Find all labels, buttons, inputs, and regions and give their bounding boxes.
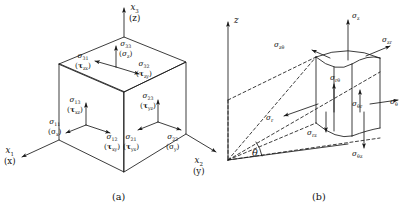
label-sigma-32: σ32 (τzy) (136, 60, 152, 81)
label-sigma-r-theta: σrθ (330, 74, 340, 84)
label-sigma-22: σ22 (σy) (166, 133, 180, 154)
label-sigma-11: σ11 (σx) (48, 118, 62, 139)
axis-label-x3: x3 (z) (129, 3, 140, 23)
caption-a: (a) (112, 192, 125, 202)
axis-label-x1: x1 (x) (4, 146, 16, 166)
label-sigma-33: σ33 (σz) (119, 40, 132, 61)
axis-x1-primary: x1 (6, 145, 14, 155)
axis-x2-alt: (y) (193, 166, 205, 176)
wedge-stress-arrows (284, 20, 398, 148)
top-face-stress-arrows (95, 46, 139, 74)
label-sigma-12: σ12 (τxy) (104, 133, 120, 154)
label-sigma-z-r: σzr (382, 36, 392, 46)
axis-x2-primary: x2 (195, 155, 203, 165)
label-sigma-31: σ31 (τzx) (75, 52, 91, 73)
axis-x3-alt: (z) (129, 13, 140, 23)
label-theta: θ (252, 148, 258, 158)
label-sigma-theta-r: σθr (352, 100, 362, 110)
axis-x3-primary: x3 (130, 2, 138, 12)
label-sigma-21: σ21 (τyx) (123, 133, 139, 154)
label-sigma-theta-z: σθz (352, 150, 362, 160)
caption-b: (b) (312, 192, 326, 202)
label-sigma-r: σr (266, 114, 273, 124)
label-sigma-23: σ23 (τyz) (140, 92, 156, 113)
axis-x1-alt: (x) (4, 156, 16, 166)
label-sigma-13: σ13 (τxz) (67, 96, 83, 117)
axis-label-x2: x2 (y) (193, 156, 205, 176)
label-sigma-z-theta: σzθ (274, 41, 284, 51)
figure-linework (0, 0, 408, 218)
label-sigma-theta: σθ (390, 98, 398, 108)
stress-components-figure: x3 (z) x1 (x) x2 (y) σ33 (σz) σ31 (τzx) … (0, 0, 408, 218)
axis-label-z: z (234, 16, 239, 25)
label-sigma-r-z: σrz (307, 129, 317, 139)
label-sigma-z: σz (352, 12, 360, 22)
